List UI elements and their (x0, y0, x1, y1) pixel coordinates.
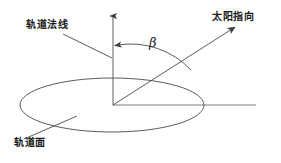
beta-angle-label: β (149, 36, 157, 49)
sun-direction-label: 太阳指向 (212, 12, 254, 22)
orbit-normal-leader-line (63, 34, 112, 58)
orbit-normal-label: 轨道法线 (26, 20, 68, 30)
orbit-plane-label: 轨道面 (14, 138, 46, 148)
sun-direction-vector (113, 29, 232, 105)
orbit-plane-leader-line (24, 116, 77, 139)
orbit-geometry-diagram: 轨道法线 太阳指向 轨道面 β (0, 0, 281, 163)
